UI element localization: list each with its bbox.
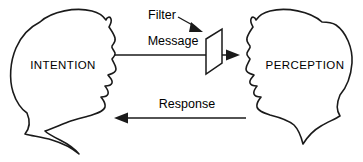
response-arrowhead-icon bbox=[114, 113, 128, 124]
message-edge-label: Message bbox=[148, 34, 199, 48]
sender-head-label: INTENTION bbox=[30, 59, 96, 71]
diagram-canvas: INTENTION PERCEPTION Message Filter Resp… bbox=[0, 0, 363, 162]
response-edge-label: Response bbox=[159, 97, 215, 111]
receiver-head-silhouette bbox=[246, 9, 352, 144]
filter-arrowhead-icon bbox=[189, 22, 203, 32]
communication-model-diagram: INTENTION PERCEPTION Message Filter Resp… bbox=[0, 0, 363, 162]
sender-head-silhouette bbox=[11, 9, 116, 154]
filter-label: Filter bbox=[148, 8, 176, 22]
filter-plane-shape bbox=[206, 29, 222, 74]
receiver-head-label: PERCEPTION bbox=[266, 59, 345, 71]
message-arrowhead-icon bbox=[226, 50, 240, 61]
